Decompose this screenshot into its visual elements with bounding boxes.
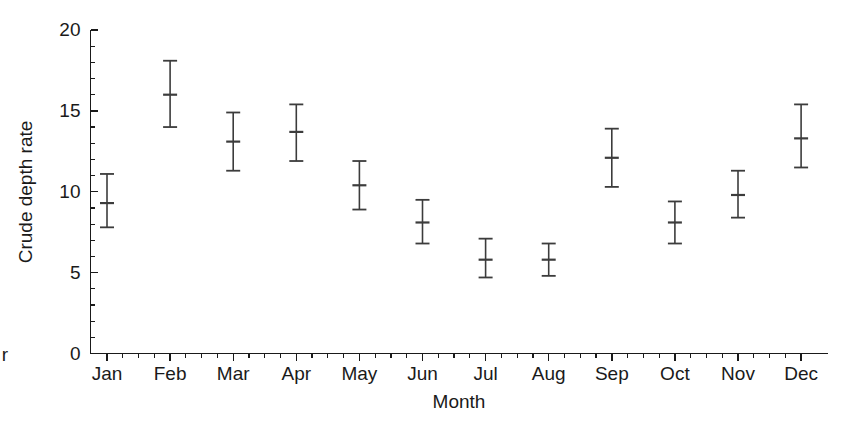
x-tick-label: May <box>341 363 377 384</box>
x-tick-label: Jun <box>407 363 438 384</box>
x-tick-label: Aug <box>532 363 566 384</box>
y-tick-label: 20 <box>59 19 80 40</box>
crude-depth-rate-chart: 05101520 JanFebMarAprMayJunJulAugSepOctN… <box>0 0 850 430</box>
x-tick-label: Nov <box>721 363 755 384</box>
stray-left-text: r <box>2 344 9 365</box>
chart-svg: 05101520 JanFebMarAprMayJunJulAugSepOctN… <box>0 0 850 430</box>
x-tick-label: Sep <box>595 363 629 384</box>
x-tick-label: Jan <box>92 363 123 384</box>
x-axis-title: Month <box>433 391 486 412</box>
y-tick-label: 0 <box>70 343 81 364</box>
x-tick-label: Jul <box>473 363 497 384</box>
x-tick-label: Oct <box>660 363 690 384</box>
y-tick-label: 5 <box>70 262 81 283</box>
y-tick-label: 15 <box>59 100 80 121</box>
y-axis-title: Crude depth rate <box>15 121 36 264</box>
x-tick-label: Feb <box>154 363 187 384</box>
x-tick-label: Dec <box>784 363 818 384</box>
x-tick-label: Apr <box>282 363 312 384</box>
y-tick-label: 10 <box>59 181 80 202</box>
x-tick-label: Mar <box>217 363 250 384</box>
